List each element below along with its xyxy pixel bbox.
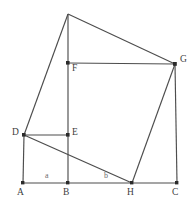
- vertex-label-F: F: [72, 64, 77, 74]
- vertex-F: [66, 61, 70, 65]
- edge-A-D: [23, 135, 24, 183]
- edge-D-H: [24, 135, 132, 183]
- vertex-label-E: E: [72, 128, 78, 138]
- vertex-H: [130, 181, 133, 184]
- edge-F-G: [68, 63, 175, 64]
- vertex-E: [66, 133, 70, 137]
- vertex-label-B: B: [63, 188, 69, 198]
- edge-G-C: [175, 64, 177, 183]
- vertex-A: [21, 181, 24, 184]
- vertex-C: [175, 181, 178, 184]
- segment-label-b: b: [104, 172, 108, 180]
- vertex-B: [66, 181, 69, 184]
- vertex-G: [173, 62, 177, 66]
- figure-canvas: [0, 0, 196, 210]
- vertex-D: [22, 133, 26, 137]
- segment-label-a: a: [45, 172, 49, 180]
- vertex-label-H: H: [127, 188, 134, 198]
- edge-D-T: [24, 14, 68, 135]
- geometry-figure: A B H C D E F G a b: [0, 0, 196, 210]
- vertex-label-D: D: [12, 128, 19, 138]
- vertex-label-A: A: [17, 188, 24, 198]
- edge-T-G: [68, 14, 175, 64]
- vertex-label-C: C: [172, 188, 178, 198]
- edge-G-H: [132, 64, 175, 183]
- vertex-label-G: G: [180, 55, 187, 65]
- figure-edges: [23, 14, 177, 183]
